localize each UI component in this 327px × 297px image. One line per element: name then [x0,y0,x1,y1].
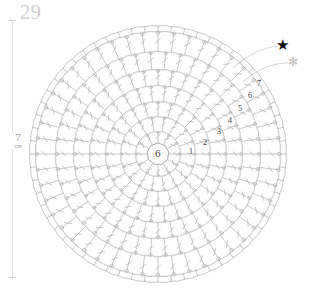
round-number-7: 7 [257,80,261,88]
asterisk-icon: ✻ [288,56,298,68]
round-number-2: 2 [203,139,207,147]
round-number-3: 3 [217,128,221,136]
page-canvas: 29 7 cm ★ ✻ 61234567 [0,0,327,297]
leader-line-star [233,46,277,68]
round-number-1: 1 [189,148,193,156]
round-number-4: 4 [228,117,232,125]
round-number-5: 5 [238,105,242,113]
round-number-6: 6 [248,92,252,100]
star-icon: ★ [276,38,289,53]
center-ring-label: 6 [155,148,161,159]
